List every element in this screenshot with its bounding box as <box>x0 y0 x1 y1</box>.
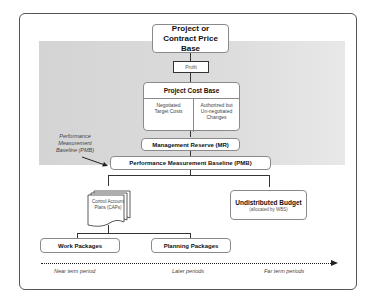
timeline-near-label: Near term period <box>54 268 95 274</box>
management-reserve-box: Management Reserve (MR) <box>141 138 240 151</box>
connector <box>269 175 270 187</box>
undistributed-budget-subtitle: (allocated by WBS) <box>249 207 288 212</box>
connector <box>190 72 191 82</box>
work-packages-box: Work Packages <box>40 238 120 253</box>
timeline-later-label: Later periods <box>172 268 204 274</box>
pmb-label: Performance Measurement Baseline (PMB) <box>129 160 251 166</box>
caps-label: Control Account Plans (CAPs) <box>89 199 127 211</box>
cost-base-title: Project Cost Base <box>144 83 239 99</box>
price-base-label: Project or Contract Price Base <box>157 24 224 54</box>
timeline-dotted-line <box>41 263 333 264</box>
pmb-box: Performance Measurement Baseline (PMB) <box>110 156 271 170</box>
timeline-arrow-icon <box>331 259 339 267</box>
timeline-far-label: Far term periods <box>264 268 304 274</box>
profit-box: Profit <box>173 61 209 73</box>
connector <box>108 175 109 186</box>
connector <box>77 233 191 234</box>
annotation-arrow-icon <box>80 155 110 169</box>
cost-base-box: Project Cost Base Negotiated Target Cost… <box>143 82 240 131</box>
negotiated-costs-label: Negotiated Target Costs <box>144 99 194 132</box>
planning-packages-label: Planning Packages <box>164 243 219 249</box>
unnegotiated-changes-label: Authorized but Un-negotiated Changes <box>194 99 239 132</box>
price-base-box: Project or Contract Price Base <box>152 24 229 53</box>
undistributed-budget-box: Undistributed Budget (allocated by WBS) <box>230 190 307 220</box>
management-reserve-label: Management Reserve (MR) <box>152 142 229 148</box>
undistributed-budget-title: Undistributed Budget <box>235 199 301 206</box>
work-packages-label: Work Packages <box>58 243 102 249</box>
profit-label: Profit <box>185 64 197 70</box>
connector <box>108 175 270 176</box>
planning-packages-box: Planning Packages <box>151 238 231 253</box>
pmb-annotation: Performance Measurement Baseline (PMB) <box>50 133 100 154</box>
